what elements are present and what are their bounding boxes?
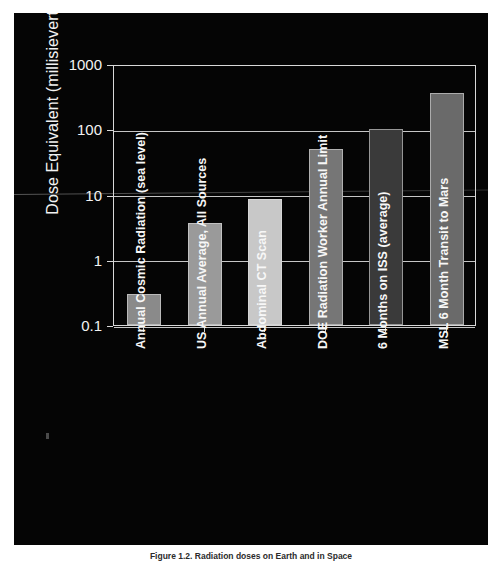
scan-artifact-speck [46,433,49,439]
y-tick-mark-10 [107,196,113,197]
x-axis-label-4: 6 Months on ISS (average) [376,191,390,349]
y-tick-mark-1 [107,261,113,262]
x-axis-label-5: MSL 6 Month Transit to Mars [437,178,451,349]
y-tick-label-0.1: 0.1 [58,321,102,331]
gridline-10 [114,196,475,197]
y-tick-label-100: 100 [58,125,102,135]
x-axis-label-0: Annual Cosmic Radiation (sea level) [134,132,148,349]
y-tick-mark-1000 [107,65,113,66]
y-tick-mark-100 [107,130,113,131]
gridline-0.1 [114,327,475,328]
plot-area [113,65,476,326]
x-axis-label-2: Abdominal CT Scan [255,230,269,349]
y-tick-label-10: 10 [58,191,102,201]
y-tick-label-1: 1 [58,256,102,266]
gridline-100 [114,131,475,132]
x-axis-label-1: US Annual Average, All Sources [195,158,209,349]
y-tick-label-1000: 1000 [58,60,102,70]
y-tick-mark-0.1 [107,326,113,327]
figure-caption: Figure 1.2. Radiation doses on Earth and… [0,551,502,561]
figure-panel: Dose Equivalent (millisieverts) 10001001… [14,13,488,545]
gridline-1 [114,261,475,262]
x-axis-label-3: DOE Radiation Worker Annual Limit [316,135,330,349]
